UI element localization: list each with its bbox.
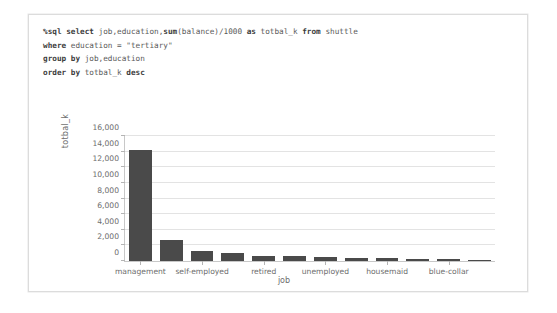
x-axis-tick-mark [387,261,388,265]
sql-keyword: sum [163,27,177,36]
y-axis-tick-label: 8,000 [73,185,119,194]
sql-keyword: from [302,27,325,36]
x-axis-tick-label: housemaid [366,267,408,276]
code-line: group by job,education [43,52,513,66]
x-axis-tick-mark [140,261,141,265]
sql-text: (balance)/1000 [177,27,246,36]
bar-cell[interactable] [372,136,403,261]
screenshot-root: %sql select job,education,sum(balance)/1… [0,0,557,313]
bar-cell[interactable] [433,136,464,261]
sql-keyword: desc [126,68,145,77]
y-axis-tick-label: 4,000 [73,216,119,225]
bar[interactable] [129,150,152,261]
y-axis-tick-label: 16,000 [73,123,119,132]
sql-text: job,education, [99,27,164,36]
bar[interactable] [160,240,183,261]
y-axis-tick-label: 10,000 [73,169,119,178]
x-axis-tick-mark [264,261,265,265]
x-axis-tick-mark [325,261,326,265]
sql-text: totbal_k [85,68,127,77]
bar-cell[interactable] [310,136,341,261]
x-axis-ticks [125,261,495,265]
y-axis-tick-label: 2,000 [73,232,119,241]
sql-text: education = "tertiary" [71,41,173,50]
bar-cell[interactable] [464,136,495,261]
y-axis-tick-label: 14,000 [73,138,119,147]
bar-cell[interactable] [402,136,433,261]
sql-text: totbal_k [261,27,303,36]
bar-cell[interactable] [125,136,156,261]
bar[interactable] [221,253,244,261]
bar[interactable] [191,251,214,261]
y-axis-title-label: totbal_k [61,91,70,171]
x-axis-tick-label: blue-collar [429,267,469,276]
sql-text: job,education [85,54,145,63]
bar-cell[interactable] [279,136,310,261]
sql-keyword: %sql select [43,27,99,36]
plot-area: 02,0004,0006,0008,00010,00012,00014,0001… [124,136,495,262]
bar-cell[interactable] [217,136,248,261]
sql-text: shuttle [325,27,357,36]
x-axis-tick-label: retired [251,267,276,276]
x-axis-tick-label: self-employed [175,267,228,276]
x-axis-tick-label: unemployed [302,267,349,276]
bars-group [125,136,495,261]
bar-chart: totbal_k 02,0004,0006,0008,00010,00012,0… [49,111,519,287]
x-axis-tick-mark [202,261,203,265]
notebook-paragraph-panel: %sql select job,education,sum(balance)/1… [28,14,528,292]
bar-cell[interactable] [187,136,218,261]
y-axis-tick-label: 12,000 [73,154,119,163]
x-axis-title: job [49,276,519,285]
y-axis-tick-label: 6,000 [73,201,119,210]
y-axis-tick-label: 0 [73,248,119,257]
x-axis-tick-mark [449,261,450,265]
code-line: %sql select job,education,sum(balance)/1… [43,25,513,39]
y-axis-title: totbal_k [61,91,70,171]
code-line: where education = "tertiary" [43,39,513,53]
code-line: order by totbal_k desc [43,66,513,80]
x-axis-tick-label: management [115,267,166,276]
sql-keyword: as [247,27,261,36]
sql-keyword: where [43,41,71,50]
bar-cell[interactable] [248,136,279,261]
sql-code-block[interactable]: %sql select job,education,sum(balance)/1… [43,25,513,79]
sql-keyword: order by [43,68,85,77]
sql-keyword: group by [43,54,85,63]
bar-cell[interactable] [341,136,372,261]
bar-cell[interactable] [156,136,187,261]
